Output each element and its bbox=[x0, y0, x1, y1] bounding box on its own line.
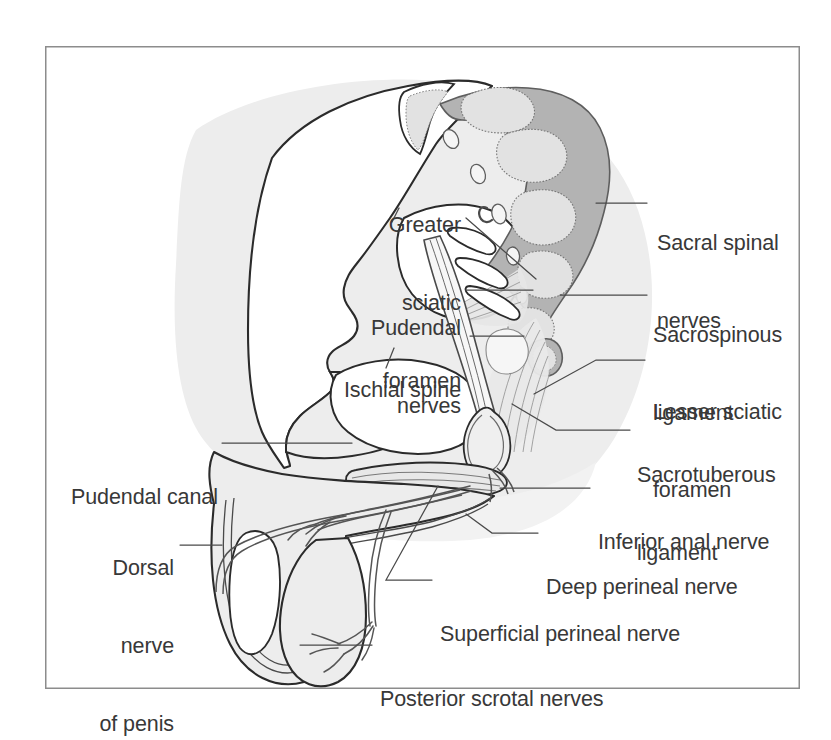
label-line: Greater bbox=[333, 212, 461, 238]
label-line: Dorsal bbox=[76, 555, 174, 581]
label-dorsal-nerve-of-penis: Dorsal nerve of penis bbox=[76, 503, 174, 740]
label-line: Sacrospinous bbox=[653, 322, 823, 348]
label-line: Posterior scrotal nerves bbox=[380, 686, 630, 712]
label-line: of penis bbox=[76, 711, 174, 737]
label-ischial-spine: Ischial spine bbox=[325, 325, 461, 455]
label-line: Ischial spine bbox=[325, 377, 461, 403]
label-posterior-scrotal-nerves: Posterior scrotal nerves bbox=[380, 634, 630, 740]
label-line: nerve bbox=[76, 633, 174, 659]
label-line: Sacral spinal bbox=[657, 230, 817, 256]
